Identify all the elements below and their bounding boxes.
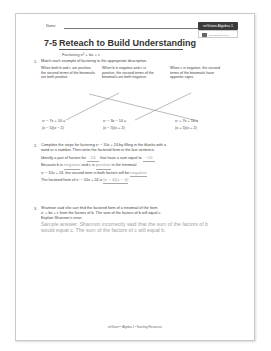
q2-answer-b-sign: negative (64, 162, 81, 169)
q2-step-2-text-b: and c is (81, 163, 94, 167)
q2-step-2-text-a: Because b is (41, 163, 63, 167)
q2-step-2-text-c: in the trinomial (112, 163, 137, 167)
q1-example-3-expr: x² + 7x + 10 = (175, 118, 198, 125)
q1-example-3: x² + 7x + 10 = (x + 5)(x + 2) (175, 118, 198, 132)
q2-prompt: Complete the steps for factoring x² − 10… (41, 143, 166, 153)
q2-prompt-line-2: word or a number. Then write the factore… (41, 148, 166, 153)
q2-answer-second-term: negative (130, 170, 147, 177)
q2-step-1: Identify a pair of factors for 24 that h… (41, 155, 155, 162)
page-footer: enVision™ Algebra 1 • Teaching Resources (16, 325, 254, 329)
q3-number: 3. (34, 207, 37, 211)
q3-prompt-line-3: Explain Shannon's error. (41, 216, 161, 221)
q2-answer-sum: −10 (143, 155, 155, 162)
q1-example-3-factored: (x + 5)(x + 2) (175, 125, 198, 132)
q3-prompt: Shannon said she can find the factored f… (41, 206, 161, 220)
q2-steps: Identify a pair of factors for 24 that h… (41, 155, 155, 184)
q1-example-1-factored: (x − 5)(x − 2) (42, 125, 65, 132)
worksheet-page: Name enVision Algebra 1 savvasrealize.co… (15, 13, 255, 341)
q2-number: 2. (34, 144, 37, 148)
q3-prompt-line-2: x² + bx + c from the factors of b. The s… (41, 211, 161, 216)
q1-example-2-factored: (x − 5)(x + 2) (103, 125, 126, 132)
q2-step-3: x² − 10x + 24, the second term in both f… (41, 170, 155, 177)
q2-answer-c-sign: positive (96, 162, 111, 169)
q2-step-4-text: The factored form of x² − 10x + 24 is (41, 178, 102, 182)
q1-example-2-expr: x² − 3x − 10 = (103, 118, 126, 125)
q2-step-3-text: x² − 10x + 24, the second term in both f… (41, 171, 129, 175)
q1-example-1-expr: x² − 7x + 10 = (42, 118, 65, 125)
q2-answer-factored-form: (x − 4)(x − 6) (103, 177, 128, 184)
q3-sample-answer: Sample answer: Shannon incorrectly said … (41, 221, 219, 234)
q2-step-1-text-a: Identify a pair of factors for (41, 156, 86, 160)
q1-example-2: x² − 3x − 10 = (x − 5)(x + 2) (103, 118, 126, 132)
q2-answer-factors-for: 24 (87, 155, 99, 162)
q2-step-4: The factored form of x² − 10x + 24 is (x… (41, 177, 155, 184)
q2-step-1-text-b: that have a sum equal to (100, 156, 142, 160)
q2-step-2: Because b is negative and c is positive … (41, 162, 155, 169)
q1-example-1: x² − 7x + 10 = (x − 5)(x − 2) (42, 118, 65, 132)
